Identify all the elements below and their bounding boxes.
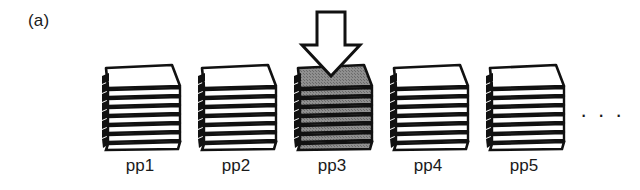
stack-sheets — [106, 88, 180, 150]
stack-left-spine — [102, 73, 109, 148]
stack-top-sheet — [202, 65, 276, 88]
stack-left-spine — [390, 73, 397, 148]
paper-stack-pp2[interactable] — [198, 65, 276, 150]
stack-top-sheet — [106, 65, 180, 88]
stack-left-spine — [294, 73, 301, 148]
stack-top-sheet — [490, 65, 564, 88]
stack-sheets — [202, 88, 276, 150]
stack-sheets — [490, 88, 564, 150]
paper-stack-pp4[interactable] — [390, 65, 468, 150]
paper-stack-pp1[interactable] — [102, 65, 180, 150]
stack-sheets — [394, 88, 468, 150]
stack-sheets-highlighted — [298, 88, 372, 150]
ellipsis-continuation: · · · — [580, 104, 624, 126]
stack-top-sheet — [394, 65, 468, 88]
stack-label-pp4: pp4 — [383, 157, 473, 174]
stack-label-pp3: pp3 — [287, 157, 377, 174]
paper-stack-pp5[interactable] — [486, 65, 564, 150]
stack-label-pp1: pp1 — [95, 157, 185, 174]
stack-left-spine — [486, 73, 493, 148]
figure-panel-a: (a) — [0, 0, 640, 190]
stack-left-spine — [198, 73, 205, 148]
stack-label-pp5: pp5 — [479, 157, 569, 174]
stack-label-pp2: pp2 — [191, 157, 281, 174]
paper-stack-pp3[interactable] — [294, 65, 372, 150]
